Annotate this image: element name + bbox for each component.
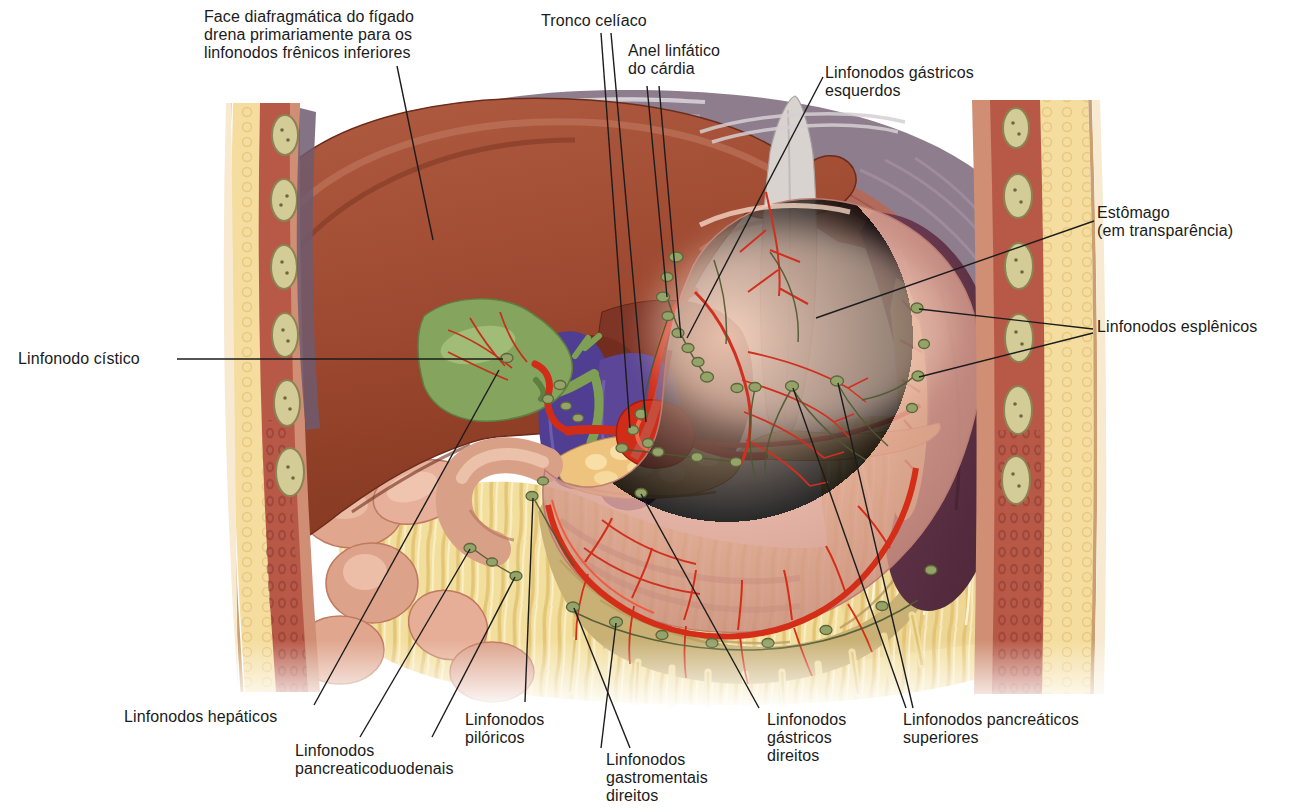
label-linfonodos-pancreaticoduodenais: Linfonodos pancreaticoduodenais bbox=[295, 742, 454, 778]
label-linfonodos-gastromentais-direitos: Linfonodos gastromentais direitos bbox=[606, 751, 708, 805]
label-estomago-em-transparencia: Estômago (em transparência) bbox=[1097, 204, 1233, 240]
label-anel-linfatico-cardia: Anel linfático do cárdia bbox=[628, 42, 720, 78]
label-linfonodos-gastricos-direitos: Linfonodos gástricos direitos bbox=[767, 711, 846, 765]
label-linfonodos-gastricos-esquerdos: Linfonodos gástricos esquerdos bbox=[825, 64, 974, 100]
label-linfonodos-pancreaticos-superiores: Linfonodos pancreáticos superiores bbox=[903, 711, 1079, 747]
bottom-fade bbox=[210, 640, 1110, 710]
label-face-diafragmatica: Face diafragmática do fígado drena prima… bbox=[204, 8, 414, 62]
label-tronco-celiaco: Tronco celíaco bbox=[541, 12, 647, 30]
figure-canvas: Face diafragmática do fígado drena prima… bbox=[0, 0, 1312, 812]
label-linfonodos-piloricos: Linfonodos pilóricos bbox=[465, 711, 544, 747]
label-linfonodos-hepaticos: Linfonodos hepáticos bbox=[124, 708, 277, 726]
anatomical-illustration bbox=[0, 0, 1312, 812]
label-linfonodo-cistico: Linfonodo cístico bbox=[18, 350, 140, 368]
body-wall-left bbox=[224, 103, 320, 692]
body-wall-right bbox=[972, 100, 1106, 694]
label-linfonodos-esplenicos: Linfonodos esplênicos bbox=[1097, 318, 1257, 336]
